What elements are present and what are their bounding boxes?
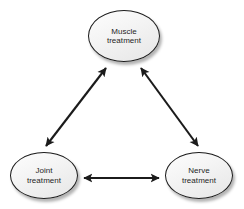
diagram-canvas: Muscle treatment Joint treatment Nerve t… — [0, 0, 244, 209]
node-joint-treatment-label: Joint treatment — [27, 166, 61, 185]
node-muscle-treatment-label: Muscle treatment — [107, 27, 141, 46]
node-joint-treatment: Joint treatment — [10, 152, 78, 199]
edge-joint-muscle — [46, 68, 106, 146]
edge-muscle-nerve — [141, 68, 198, 146]
node-muscle-treatment: Muscle treatment — [88, 10, 160, 62]
node-nerve-treatment: Nerve treatment — [165, 152, 233, 199]
node-nerve-treatment-label: Nerve treatment — [182, 166, 216, 185]
